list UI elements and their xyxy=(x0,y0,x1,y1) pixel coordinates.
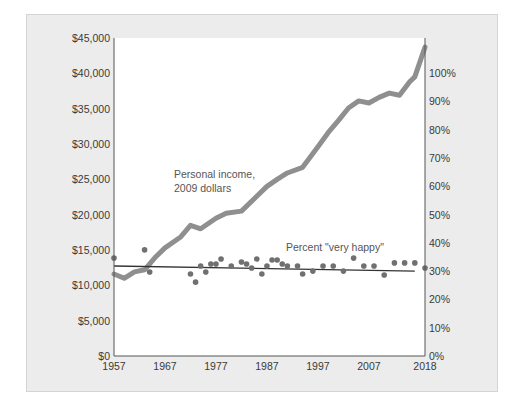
happy-dot xyxy=(381,272,387,278)
happy-dot xyxy=(244,261,250,267)
right-tick-label: 50% xyxy=(429,209,450,221)
left-tick-label: $10,000 xyxy=(72,279,110,291)
left-tick-label: $5,000 xyxy=(78,315,110,327)
happy-dot xyxy=(218,256,224,262)
happy-dot xyxy=(295,263,301,269)
x-tick-label: 1967 xyxy=(153,360,177,372)
right-tick-label: 70% xyxy=(429,152,450,164)
happy-dot xyxy=(254,256,260,262)
right-tick-label: 90% xyxy=(429,95,450,107)
happy-dot xyxy=(259,271,265,277)
x-tick-label: 1997 xyxy=(306,360,330,372)
right-axis-ticks: 0%10%20%30%40%50%60%70%80%90%100% xyxy=(429,67,456,362)
left-tick-label: $45,000 xyxy=(72,32,110,44)
x-tick-label: 1957 xyxy=(102,360,126,372)
left-tick-label: $20,000 xyxy=(72,209,110,221)
right-tick-label: 20% xyxy=(429,293,450,305)
chart-svg: $0$5,000$10,000$15,000$20,000$25,000$30,… xyxy=(0,0,526,410)
x-tick-label: 1977 xyxy=(204,360,228,372)
happy-dot xyxy=(213,261,219,267)
happy-label: Percent "very happy" xyxy=(286,241,384,253)
income-label-line1: Personal income, xyxy=(174,168,255,180)
right-tick-label: 10% xyxy=(429,322,450,334)
happy-dot xyxy=(300,271,306,277)
x-tick-label: 2018 xyxy=(413,360,437,372)
right-tick-label: 40% xyxy=(429,237,450,249)
happy-dot xyxy=(203,269,209,275)
happy-dot xyxy=(188,271,194,277)
right-tick-label: 80% xyxy=(429,124,450,136)
happy-dot xyxy=(264,263,270,269)
left-tick-label: $35,000 xyxy=(72,103,110,115)
x-tick-label: 2007 xyxy=(357,360,381,372)
happy-dot xyxy=(269,257,275,263)
right-tick-label: 60% xyxy=(429,180,450,192)
happy-dot xyxy=(279,261,285,267)
happy-dot xyxy=(402,260,408,266)
left-tick-label: $25,000 xyxy=(72,173,110,185)
right-tick-label: 30% xyxy=(429,265,450,277)
happy-dot xyxy=(412,260,418,266)
happy-dot xyxy=(239,259,245,265)
x-tick-label: 1987 xyxy=(255,360,279,372)
income-label-line2: 2009 dollars xyxy=(174,182,231,194)
right-tick-label: 100% xyxy=(429,67,456,79)
happy-dot xyxy=(198,263,204,269)
happy-dot xyxy=(274,257,280,263)
happy-dot xyxy=(228,263,234,269)
left-tick-label: $15,000 xyxy=(72,244,110,256)
happy-dot xyxy=(249,265,255,271)
happy-dot xyxy=(208,261,214,267)
left-tick-label: $30,000 xyxy=(72,138,110,150)
happy-dot xyxy=(310,268,316,274)
happy-dot xyxy=(147,269,153,275)
happy-dot xyxy=(351,255,357,261)
happy-dot xyxy=(341,268,347,274)
plot-area xyxy=(114,38,425,356)
happy-dot xyxy=(392,260,398,266)
happy-dot xyxy=(142,247,148,253)
happy-dot xyxy=(320,263,326,269)
happy-dot xyxy=(193,279,199,285)
x-axis-ticks: 1957196719771987199720072018 xyxy=(102,360,437,372)
happy-dot xyxy=(371,263,377,269)
left-axis-ticks: $0$5,000$10,000$15,000$20,000$25,000$30,… xyxy=(72,32,110,362)
happy-dot xyxy=(285,263,291,269)
left-tick-label: $40,000 xyxy=(72,67,110,79)
happy-dot xyxy=(361,263,367,269)
happy-dot xyxy=(330,263,336,269)
